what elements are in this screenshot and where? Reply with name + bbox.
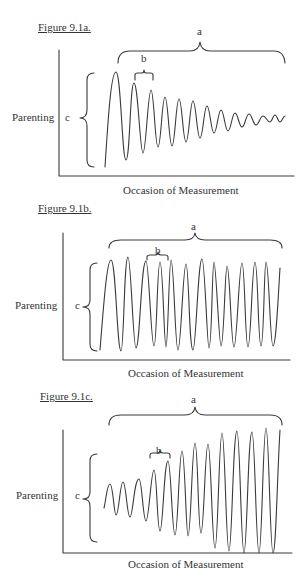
- figure-c: [63, 407, 292, 553]
- figure-b-wave: [100, 257, 280, 351]
- figure-c-a-brace: [109, 407, 282, 425]
- figures-canvas: [0, 0, 308, 582]
- figure-c-wave: [104, 428, 280, 553]
- figure-c-c-brace: [83, 454, 97, 542]
- figure-a-a-brace: [118, 42, 285, 63]
- figure-a-c-brace: [80, 73, 94, 167]
- figure-c-b-brace: [150, 450, 170, 458]
- figure-a-b-brace: [135, 70, 153, 80]
- figure-a-wave: [105, 72, 285, 167]
- figure-b-a-brace: [109, 233, 282, 248]
- figure-b-b-brace: [147, 252, 168, 260]
- figure-b: [63, 233, 290, 360]
- figure-b-c-brace: [83, 263, 97, 351]
- figure-c-axes: [63, 430, 292, 553]
- figure-a: [59, 42, 294, 176]
